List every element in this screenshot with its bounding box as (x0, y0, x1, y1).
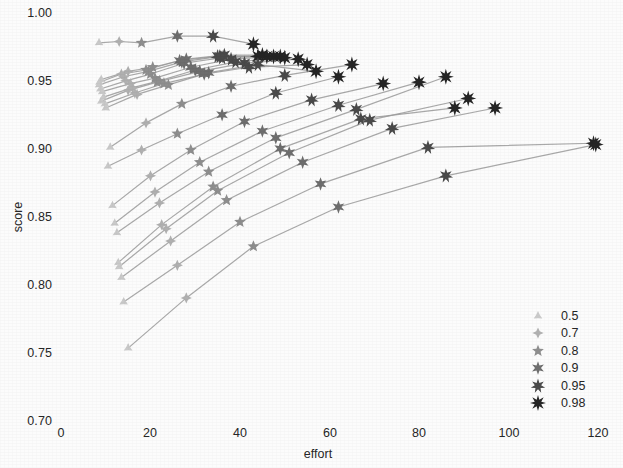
data-point-marker (375, 76, 391, 92)
data-point-marker (274, 142, 286, 156)
data-point-marker (154, 197, 165, 208)
data-point-marker (487, 100, 503, 116)
ytick-label: 0.90 (8, 142, 52, 156)
data-point-marker (172, 260, 183, 271)
xtick-label: 120 (580, 426, 616, 440)
legend-label: 0.95 (561, 379, 585, 393)
ytick-label: 0.75 (8, 346, 52, 360)
xtick-label: 60 (312, 426, 348, 440)
data-point-marker (239, 115, 251, 129)
ytick-label: 0.95 (8, 74, 52, 88)
data-point-marker (176, 98, 188, 109)
legend-label: 0.5 (561, 309, 578, 323)
data-point-marker (277, 50, 293, 66)
ytick-label: 0.80 (8, 278, 52, 292)
xtick-label: 80 (401, 426, 437, 440)
data-point-marker (439, 168, 453, 182)
data-point-marker (165, 235, 176, 246)
y-axis-title: score (11, 192, 25, 242)
xtick-label: 0 (43, 426, 79, 440)
series-line (124, 143, 594, 302)
data-point-marker (269, 86, 283, 100)
legend-item-0-95[interactable]: 0.95 (527, 377, 585, 394)
data-point-marker (113, 228, 122, 236)
legend-item-0-9[interactable]: 0.9 (527, 360, 578, 377)
data-point-marker (283, 146, 295, 160)
legend-label: 0.8 (561, 344, 578, 358)
ytick-label: 1.00 (8, 6, 52, 20)
data-point-marker (95, 38, 104, 46)
data-point-marker (114, 258, 123, 266)
data-point-marker (225, 79, 237, 93)
data-point-marker (171, 128, 183, 139)
legend-label: 0.98 (561, 396, 585, 410)
x-axis-title: effort (288, 447, 348, 461)
data-point-marker (330, 69, 346, 85)
data-point-marker (124, 343, 133, 351)
data-point-marker (117, 273, 126, 281)
data-point-marker (270, 131, 282, 145)
data-point-marker (331, 98, 345, 112)
series-lines-layer (99, 36, 596, 348)
xtick-label: 20 (132, 426, 168, 440)
data-point-marker (119, 297, 128, 305)
legend-item-0-7[interactable]: 0.7 (527, 325, 578, 342)
data-point-marker (145, 170, 156, 181)
data-point-marker (385, 121, 399, 135)
data-point-marker (203, 166, 215, 177)
data-point-marker (136, 144, 147, 155)
data-point-marker (216, 108, 228, 122)
data-point-marker (411, 74, 427, 90)
data-point-marker (256, 124, 268, 138)
data-point-marker (333, 200, 345, 214)
legend-item-0-98[interactable]: 0.98 (527, 395, 585, 412)
data-point-marker (108, 201, 117, 209)
data-point-marker (110, 218, 119, 226)
chart-figure: 1.00 0.95 0.90 0.85 0.80 0.75 0.70 0 20 … (0, 0, 623, 468)
data-point-marker (297, 155, 309, 169)
xtick-label: 100 (491, 426, 527, 440)
xtick-label: 40 (222, 426, 258, 440)
data-point-marker (140, 117, 151, 128)
data-point-marker (304, 92, 318, 106)
legend-label: 0.9 (561, 361, 578, 375)
series-line (128, 145, 596, 349)
data-point-marker (588, 137, 604, 153)
series-line (117, 77, 446, 233)
legend-item-0-8[interactable]: 0.8 (527, 342, 578, 359)
data-point-marker (114, 36, 125, 47)
legend-star-icon (527, 393, 549, 413)
data-point-marker (299, 57, 315, 73)
data-point-marker (136, 37, 148, 48)
data-point-marker (438, 69, 454, 85)
data-point-marker (245, 36, 261, 52)
data-point-marker (149, 186, 160, 197)
data-point-marker (447, 100, 463, 116)
data-point-marker (106, 142, 115, 150)
data-point-marker (460, 90, 476, 106)
legend-label: 0.7 (561, 326, 578, 340)
data-point-marker (315, 177, 327, 191)
legend-item-0-5[interactable]: 0.5 (527, 307, 578, 324)
data-point-marker (344, 57, 360, 73)
